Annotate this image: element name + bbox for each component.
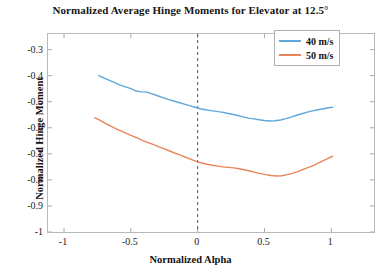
chart-figure: Normalized Average Hinge Moments for Ele… bbox=[0, 0, 381, 276]
x-tick-label: 0 bbox=[177, 236, 217, 247]
legend-color-swatch bbox=[279, 54, 301, 56]
y-tick-label: -1 bbox=[3, 226, 43, 237]
x-tick-label: -0.5 bbox=[110, 236, 150, 247]
x-tick-label: 1 bbox=[310, 236, 350, 247]
series-line-1 bbox=[95, 118, 333, 176]
legend-entry[interactable]: 50 m/s bbox=[279, 48, 334, 62]
legend-color-swatch bbox=[279, 40, 301, 42]
chart-legend: 40 m/s50 m/s bbox=[274, 30, 340, 66]
legend-label: 50 m/s bbox=[306, 50, 334, 61]
x-axis-title: Normalized Alpha bbox=[0, 254, 381, 265]
legend-entry[interactable]: 40 m/s bbox=[279, 34, 334, 48]
y-tick-label: -0.3 bbox=[3, 43, 43, 54]
x-tick-label: -1 bbox=[43, 236, 83, 247]
chart-title: Normalized Average Hinge Moments for Ele… bbox=[0, 4, 381, 16]
x-tick-label: 0.5 bbox=[243, 236, 283, 247]
legend-label: 40 m/s bbox=[306, 36, 334, 47]
y-axis-title: Normalized Hinge Moment bbox=[34, 54, 45, 224]
series-line-0 bbox=[99, 76, 333, 121]
data-series-group bbox=[95, 76, 333, 176]
